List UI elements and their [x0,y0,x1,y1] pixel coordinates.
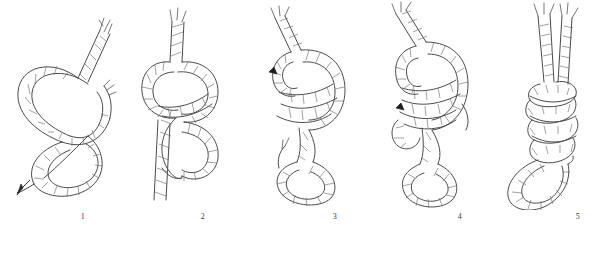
step-label-4: 4 [448,212,472,221]
knot-figure-step-2 [128,0,248,210]
step-label-5: 5 [566,212,590,221]
knot-figure-step-1 [0,0,130,210]
step-label-3: 3 [323,212,347,221]
step-label-2: 2 [191,212,215,221]
knot-drawing-5 [500,0,596,210]
knot-drawing-1 [0,0,130,210]
knot-drawing-2 [128,0,248,210]
insertion-point-marker-step-3 [269,67,277,74]
knot-figure-step-5 [500,0,596,210]
knot-drawing-4 [382,0,502,210]
knot-drawing-3 [255,0,375,210]
insertion-point-marker-step-4 [396,103,404,110]
knot-figure-step-4 [382,0,502,210]
step-label-1: 1 [71,212,95,221]
knot-sequence-illustration: 1 2 3 4 5 [0,0,596,261]
knot-figure-step-3 [255,0,375,210]
measurement-bracket [0,228,240,261]
